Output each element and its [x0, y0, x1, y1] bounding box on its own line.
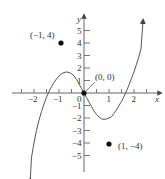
svg-text:−4: −4 — [72, 138, 82, 148]
svg-text:−3: −3 — [72, 126, 82, 136]
x-tick-label: −2 — [28, 94, 38, 104]
svg-text:−2: −2 — [72, 113, 82, 123]
x-axis-label: x — [154, 94, 159, 104]
x-tick-label: 2 — [132, 94, 137, 104]
label-origin: (0, 0) — [95, 72, 115, 82]
svg-text:−5: −5 — [72, 151, 82, 161]
svg-text:−1: −1 — [72, 101, 82, 111]
label-local-min: (1, −4) — [118, 141, 143, 151]
point-local-min — [106, 141, 111, 146]
x-tick-label: 1 — [107, 94, 112, 104]
label-local-max: (−1, 4) — [30, 30, 55, 40]
point-local-max — [58, 40, 63, 45]
origin-leader-line — [85, 82, 95, 92]
svg-text:4: 4 — [77, 38, 82, 48]
svg-text:3: 3 — [77, 51, 82, 61]
y-axis-label: y — [76, 14, 81, 24]
cubic-function-graph: −2 −1 0 1 2 x 5 4 3 2 1 −1 −2 −3 −4 −5 y… — [0, 0, 165, 179]
svg-text:5: 5 — [77, 26, 82, 36]
svg-text:2: 2 — [77, 63, 82, 73]
x-tick-label: −1 — [53, 94, 63, 104]
